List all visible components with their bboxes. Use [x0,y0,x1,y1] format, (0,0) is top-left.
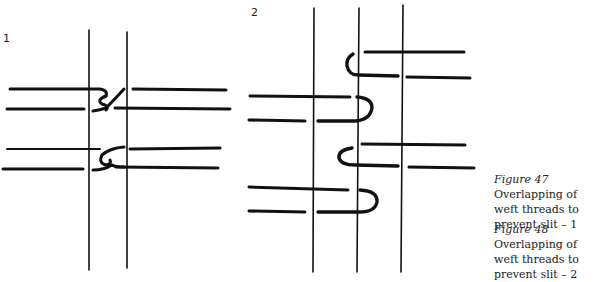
figure-48-caption: Figure 48 Overlap­ping of weft threads t… [494,222,597,282]
figure-47-label: Figure 47 [494,173,549,186]
figure-48-label: Figure 48 [494,223,549,236]
figure-1-diagram [3,30,230,270]
figure-48-text: Overlap­ping of weft threads to prevent … [494,238,579,281]
figure-2-diagram [249,5,474,272]
